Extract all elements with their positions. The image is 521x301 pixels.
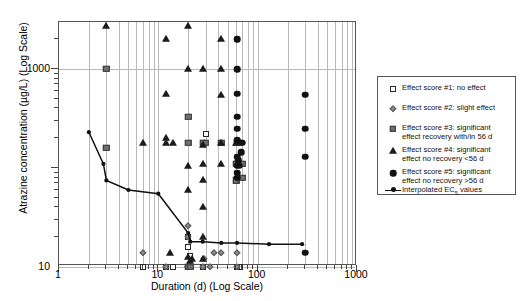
x-axis-tick: [187, 265, 188, 269]
y-axis-tick: [54, 78, 58, 79]
chart-legend: Effect score #1: no effectEffect score #…: [377, 76, 516, 195]
y-axis-tick: [51, 68, 58, 69]
y-axis-title: Atrazine concentration (µg/L) (Log Scale…: [17, 3, 29, 233]
x-axis-tick: [127, 265, 128, 269]
chart-figure: 1000100.1 1101001000 Atrazine concentrat…: [0, 0, 521, 301]
x-axis-tick: [326, 265, 327, 269]
data-point-circle: [390, 170, 397, 177]
y-axis-tick: [54, 83, 58, 84]
x-axis-tick: [217, 265, 218, 269]
plot-area: [58, 21, 356, 265]
y-axis-tick: [54, 197, 58, 198]
legend-marker-open-square-icon: [384, 83, 402, 94]
y-axis-tick: [54, 219, 58, 220]
x-axis-title: Duration (d) (Log Scale): [58, 280, 356, 292]
x-axis-tick-label: 1: [33, 269, 83, 279]
y-axis-tick: [54, 38, 58, 39]
data-point-filled-square: [390, 126, 396, 132]
y-axis-tick: [54, 189, 58, 190]
legend-label: Effect score #4: significanteffect no re…: [402, 145, 491, 163]
legend-label: Effect score #1: no effect: [402, 83, 486, 92]
x-axis-tick: [118, 265, 119, 269]
y-axis-tick: [54, 182, 58, 183]
legend-label: Effect score #5: significanteffect no re…: [402, 167, 491, 185]
legend-marker-diamond-icon: [384, 103, 402, 114]
legend-label: Interpolated EC5 values: [402, 185, 482, 198]
legend-item-6[interactable]: Interpolated EC5 values: [384, 185, 511, 198]
legend-item-5[interactable]: Effect score #5: significanteffect no re…: [384, 167, 511, 185]
y-axis-tick: [54, 107, 58, 108]
legend-marker-triangle-icon: [384, 145, 402, 156]
x-axis-tick: [105, 265, 106, 269]
y-axis-tick: [54, 90, 58, 91]
y-axis-tick: [54, 120, 58, 121]
x-axis-tick: [88, 265, 89, 269]
x-axis-tick: [227, 265, 228, 269]
legend-marker-filled-square-icon: [384, 123, 402, 134]
legend-item-2[interactable]: Effect score #2: slight effect: [384, 103, 511, 114]
legend-line-dot: [391, 187, 396, 192]
y-axis-tick: [51, 167, 58, 168]
y-axis-tick: [54, 73, 58, 74]
y-axis-tick-label: 1000: [27, 63, 50, 73]
legend-marker-circle-icon: [384, 167, 402, 178]
legend-item-3[interactable]: Effect score #3: significanteffect recov…: [384, 123, 511, 141]
x-axis-tick-label: 1000: [331, 269, 381, 279]
x-axis-tick: [287, 265, 288, 269]
x-axis-tick-label: 100: [232, 269, 282, 279]
interpolated-ec5-line: [59, 22, 357, 266]
data-point-diamond: [389, 105, 397, 113]
y-axis-tick: [54, 137, 58, 138]
y-axis-tick: [54, 98, 58, 99]
y-axis-tick: [54, 172, 58, 173]
y-axis-tick: [54, 206, 58, 207]
data-point-open-square: [390, 86, 396, 92]
x-axis-tick: [304, 265, 305, 269]
data-point-triangle: [389, 147, 397, 154]
legend-label: Effect score #2: slight effect: [402, 103, 495, 112]
x-axis-tick: [317, 265, 318, 269]
legend-item-4[interactable]: Effect score #4: significanteffect no re…: [384, 145, 511, 163]
y-axis-tick: [54, 236, 58, 237]
x-axis-tick-label: 10: [132, 269, 182, 279]
legend-item-1[interactable]: Effect score #1: no effect: [384, 83, 511, 94]
x-axis-tick: [205, 265, 206, 269]
legend-label: Effect score #3: significanteffect recov…: [402, 123, 492, 141]
legend-marker-line-dot-icon: [384, 185, 402, 196]
y-axis-tick: [54, 177, 58, 178]
